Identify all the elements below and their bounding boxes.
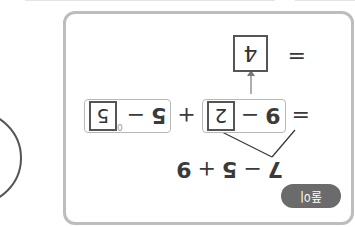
group-2: 5 − 0 5 <box>84 99 171 133</box>
group1-box: 2 <box>207 101 235 131</box>
result-box: 4 <box>233 35 268 72</box>
plus-op: + <box>171 104 201 129</box>
rotated-stage: 풀이 7 − 5 + 9 = 9 − 2 + 5 − 0 5 = 4 <box>0 0 355 227</box>
step1-row: = 9 − 2 + 5 − 0 5 <box>84 99 310 133</box>
group2-left: 5 <box>151 104 166 129</box>
group-1: 9 − 2 <box>202 99 286 133</box>
group2-box: 5 <box>89 101 117 131</box>
group1-op: − <box>235 104 265 129</box>
group1-left: 9 <box>265 104 280 129</box>
equals-2: = <box>288 44 306 69</box>
group2-op: − <box>121 104 151 129</box>
equals-1: = <box>286 104 310 129</box>
group2-superscript: 0 <box>117 122 123 132</box>
